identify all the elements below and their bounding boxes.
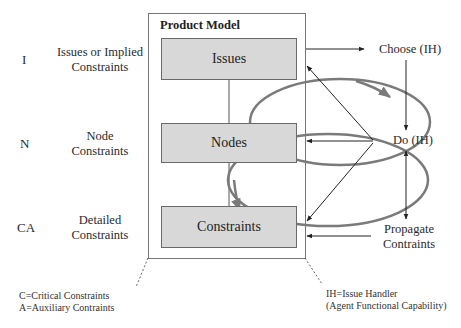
- row-description-issues: Issues or Implied Constraints: [50, 45, 150, 75]
- constraints-box-label: Constraints: [197, 219, 261, 235]
- step-do: Do (IH): [378, 133, 448, 148]
- nodes-box-label: Nodes: [211, 135, 247, 151]
- arrow-do-to-constraints: [307, 143, 373, 221]
- row-description-detailed: Detailed Constraints: [50, 213, 150, 243]
- legend-left: C=Critical Constraints A=Auxiliary Contr…: [19, 290, 114, 314]
- row-letter-ca: CA: [17, 220, 35, 236]
- row-letter-i: I: [22, 52, 26, 68]
- nodes-box: Nodes: [161, 123, 297, 163]
- product-model-title: Product Model: [160, 18, 240, 33]
- row-letter-n: N: [20, 136, 29, 152]
- step-choose: Choose (IH): [370, 42, 450, 57]
- dashed-line-right: [305, 258, 322, 284]
- constraints-box: Constraints: [161, 206, 297, 248]
- legend-right: IH=Issue Handler (Agent Functional Capab…: [326, 288, 447, 312]
- arrow-do-to-issues: [307, 66, 373, 140]
- issues-box-label: Issues: [212, 51, 246, 67]
- row-description-nodes: Node Constraints: [50, 129, 150, 159]
- issues-box: Issues: [161, 38, 297, 80]
- dashed-line-left: [136, 258, 148, 287]
- step-propagate: Propagate Contraints: [368, 222, 450, 252]
